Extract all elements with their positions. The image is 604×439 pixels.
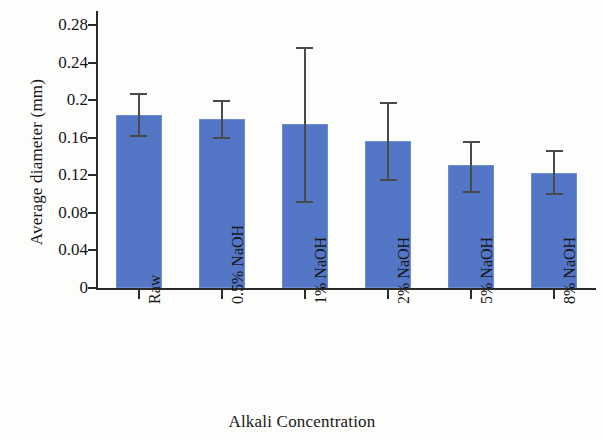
y-tick-mark bbox=[88, 24, 97, 26]
y-tick-mark bbox=[88, 212, 97, 214]
error-bar-line bbox=[470, 142, 472, 192]
y-tick-label: 0 bbox=[36, 279, 88, 296]
x-category-label: 0.5% NaOH bbox=[229, 225, 247, 304]
x-category-label: 5% NaOH bbox=[478, 237, 496, 304]
error-bar-cap-lower bbox=[463, 191, 480, 193]
error-bar-cap-upper bbox=[213, 100, 230, 102]
error-bar-cap-lower bbox=[130, 135, 147, 137]
y-tick-mark bbox=[88, 137, 97, 139]
x-category-label: 2% NaOH bbox=[395, 237, 413, 304]
x-tick-mark bbox=[553, 290, 555, 299]
y-tick-mark bbox=[88, 62, 97, 64]
error-bar-cap-lower bbox=[296, 201, 313, 203]
y-tick-label: 0.28 bbox=[36, 16, 88, 33]
error-bar-cap-lower bbox=[380, 179, 397, 181]
error-bar-line bbox=[304, 48, 306, 201]
x-axis-title: Alkali Concentration bbox=[0, 412, 604, 432]
y-tick-label: 0.2 bbox=[36, 91, 88, 108]
error-bar-line bbox=[387, 103, 389, 180]
x-tick-mark bbox=[304, 290, 306, 299]
x-category-label: 8% NaOH bbox=[561, 237, 579, 304]
error-bar-cap-upper bbox=[130, 93, 147, 95]
bar-chart-figure: Average diameter (mm) 00.040.080.120.160… bbox=[0, 0, 604, 439]
y-tick-mark bbox=[88, 287, 97, 289]
error-bar-cap-lower bbox=[213, 137, 230, 139]
error-bar-line bbox=[138, 94, 140, 136]
x-axis-line bbox=[96, 288, 596, 290]
y-tick-mark bbox=[88, 249, 97, 251]
x-category-label: 1% NaOH bbox=[312, 237, 330, 304]
y-tick-label: 0.16 bbox=[36, 129, 88, 146]
x-tick-mark bbox=[470, 290, 472, 299]
y-tick-mark bbox=[88, 99, 97, 101]
y-tick-mark bbox=[88, 174, 97, 176]
error-bar-cap-upper bbox=[296, 47, 313, 49]
x-tick-mark bbox=[138, 290, 140, 299]
x-tick-mark bbox=[221, 290, 223, 299]
y-tick-label: 0.12 bbox=[36, 166, 88, 183]
error-bar-cap-upper bbox=[380, 102, 397, 104]
error-bar-line bbox=[221, 101, 223, 138]
y-tick-label: 0.24 bbox=[36, 54, 88, 71]
error-bar-cap-lower bbox=[546, 193, 563, 195]
error-bar-cap-upper bbox=[463, 141, 480, 143]
bar bbox=[116, 115, 162, 288]
y-tick-label: 0.04 bbox=[36, 241, 88, 258]
error-bar-line bbox=[553, 151, 555, 194]
y-axis-line bbox=[96, 11, 98, 290]
error-bar-cap-upper bbox=[546, 150, 563, 152]
x-category-label: Raw bbox=[146, 275, 164, 304]
x-tick-mark bbox=[387, 290, 389, 299]
y-tick-label: 0.08 bbox=[36, 204, 88, 221]
